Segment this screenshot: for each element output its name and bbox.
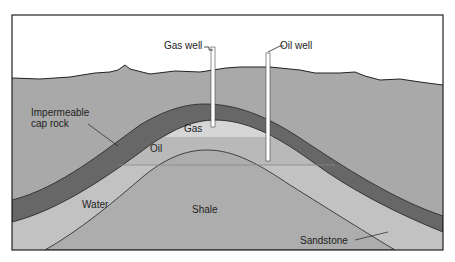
sandstone-label: Sandstone	[300, 235, 348, 246]
shale-label: Shale	[192, 204, 218, 215]
oil-well-label: Oil well	[280, 40, 312, 51]
gas-well-label: Gas well	[164, 40, 202, 51]
oil-label: Oil	[150, 143, 162, 154]
water-label: Water	[82, 199, 108, 210]
gas-label: Gas	[184, 123, 202, 134]
cap-rock-label-1: Impermeable	[31, 107, 89, 118]
cap-rock-label-2: cap rock	[31, 118, 69, 129]
gas-well-pipe	[211, 47, 215, 127]
cross-section-diagram	[0, 0, 455, 262]
oil-well-pipe	[266, 53, 270, 161]
